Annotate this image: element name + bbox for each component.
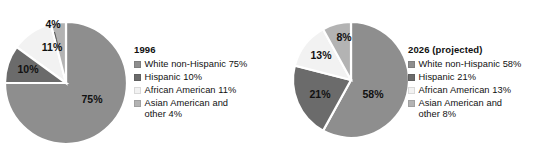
- legend-1996-item-hispanic[interactable]: Hispanic 10%: [134, 72, 266, 84]
- legend-2026-label-hispanic: Hispanic 21%: [419, 72, 476, 84]
- legend-2026-item-hispanic[interactable]: Hispanic 21%: [408, 72, 542, 84]
- legend-1996-label-white-non-hispanic: White non-Hispanic 75%: [145, 59, 248, 71]
- pie-2026: 58% 21% 13% 8%: [292, 21, 410, 139]
- legend-2026-label-white-non-hispanic: White non-Hispanic 58%: [419, 59, 522, 71]
- chart-2026: 58% 21% 13% 8% 2026 (projected) White no…: [271, 0, 542, 158]
- legend-1996-label-hispanic: Hispanic 10%: [145, 72, 202, 84]
- pie-1996: 75% 10% 11% 4%: [4, 21, 128, 145]
- legend-swatch-white-non-hispanic-icon: [134, 61, 141, 68]
- pie-1996-label-75: 75%: [81, 93, 103, 105]
- legend-1996: 1996 White non-Hispanic 75% Hispanic 10%…: [134, 44, 266, 122]
- legend-1996-item-african-american[interactable]: African American 11%: [134, 85, 266, 97]
- legend-2026: 2026 (projected) White non-Hispanic 58% …: [408, 44, 542, 122]
- pie-1996-label-4: 4%: [45, 18, 61, 30]
- pie-2026-label-8: 8%: [336, 31, 352, 43]
- legend-2026-item-african-american[interactable]: African American 13%: [408, 85, 542, 97]
- pie-2026-svg: 58% 21% 13% 8%: [292, 21, 410, 139]
- legend-swatch-white-non-hispanic-icon: [408, 61, 415, 68]
- legend-swatch-african-american-icon: [134, 87, 141, 94]
- legend-2026-item-asian-american-other[interactable]: Asian American and other 8%: [408, 98, 542, 121]
- pie-1996-label-10: 10%: [17, 63, 39, 75]
- legend-2026-item-white-non-hispanic[interactable]: White non-Hispanic 58%: [408, 59, 542, 71]
- legend-1996-title: 1996: [134, 44, 266, 55]
- legend-swatch-african-american-icon: [408, 87, 415, 94]
- pie-2026-label-58: 58%: [362, 88, 384, 100]
- legend-swatch-asian-american-other-icon: [134, 100, 141, 107]
- pie-2026-label-13: 13%: [310, 49, 332, 61]
- chart-1996: 75% 10% 11% 4% 1996 White non-Hispanic 7…: [0, 0, 271, 158]
- figure-two-pie-charts: 75% 10% 11% 4% 1996 White non-Hispanic 7…: [0, 0, 542, 158]
- legend-swatch-hispanic-icon: [408, 74, 415, 81]
- pie-1996-label-11: 11%: [42, 41, 63, 53]
- legend-2026-title: 2026 (projected): [408, 44, 542, 55]
- legend-2026-label-asian-american-other: Asian American and other 8%: [419, 98, 503, 121]
- legend-1996-item-asian-american-other[interactable]: Asian American and other 4%: [134, 98, 266, 121]
- pie-1996-svg: 75% 10% 11% 4%: [4, 21, 128, 145]
- legend-swatch-hispanic-icon: [134, 74, 141, 81]
- legend-1996-label-asian-american-other: Asian American and other 4%: [145, 98, 229, 121]
- legend-1996-label-african-american: African American 11%: [145, 85, 237, 97]
- legend-swatch-asian-american-other-icon: [408, 100, 415, 107]
- legend-1996-item-white-non-hispanic[interactable]: White non-Hispanic 75%: [134, 59, 266, 71]
- legend-2026-label-african-american: African American 13%: [419, 85, 511, 97]
- pie-2026-label-21: 21%: [309, 88, 331, 100]
